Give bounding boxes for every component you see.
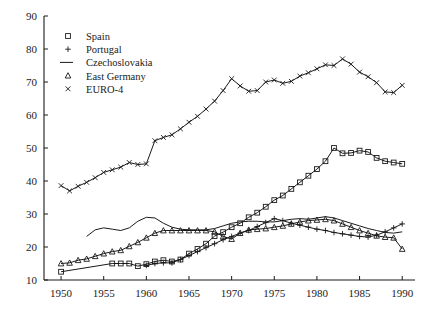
x-axis-tick-label: 1990	[391, 287, 414, 299]
data-point-marker	[93, 175, 98, 180]
x-axis-tick-label: 1980	[306, 287, 329, 299]
legend-label-spain: Spain	[86, 31, 111, 42]
y-axis-tick-label: 50	[26, 142, 38, 154]
data-point-marker	[331, 230, 337, 236]
data-point-marker	[59, 183, 64, 188]
legend-marker-square	[66, 34, 71, 39]
line-chart: 1020304050607080901950195519601965197019…	[0, 0, 423, 313]
series-line	[61, 148, 402, 272]
series-line	[146, 219, 402, 266]
data-point-marker	[152, 138, 157, 143]
series-line	[87, 217, 403, 237]
data-point-marker	[374, 80, 379, 85]
chart-root: 1020304050607080901950195519601965197019…	[0, 0, 423, 313]
data-point-marker	[187, 120, 192, 125]
data-point-marker	[357, 70, 362, 75]
y-axis-tick-label: 20	[26, 241, 38, 253]
x-axis-tick-label: 1960	[135, 287, 158, 299]
data-point-marker	[340, 231, 346, 237]
legend-marker-plus	[65, 46, 71, 52]
data-point-marker	[315, 66, 320, 71]
data-point-marker	[84, 180, 89, 185]
data-point-marker	[221, 88, 226, 93]
data-point-marker	[349, 62, 354, 67]
x-axis-tick-label: 1965	[178, 287, 201, 299]
data-point-marker	[323, 228, 329, 234]
data-point-marker	[212, 241, 218, 247]
data-point-marker	[297, 74, 302, 79]
data-point-marker	[306, 224, 312, 230]
data-point-marker	[391, 225, 397, 231]
x-axis-tick-label: 1975	[263, 287, 286, 299]
data-point-marker	[399, 221, 405, 227]
y-axis-tick-label: 30	[26, 208, 38, 220]
legend-marker-x	[66, 86, 71, 91]
chart-legend: SpainPortugalCzechoslovakiaEast GermanyE…	[60, 31, 153, 95]
series-czechoslovakia	[87, 217, 403, 237]
legend-marker-triangle	[65, 73, 71, 78]
data-point-marker	[204, 107, 209, 112]
y-axis-tick-label: 80	[26, 43, 38, 55]
data-point-marker	[238, 84, 243, 89]
data-point-marker	[67, 189, 72, 194]
data-point-marker	[271, 216, 277, 222]
legend-label-portugal: Portugal	[86, 44, 122, 55]
y-axis-tick-label: 60	[26, 109, 38, 121]
legend-label-east-germany: East Germany	[86, 71, 147, 82]
x-axis-tick-label: 1970	[221, 287, 244, 299]
series-spain	[59, 146, 405, 275]
y-axis-tick-label: 40	[26, 175, 38, 187]
data-point-marker	[76, 184, 81, 189]
data-point-marker	[400, 83, 405, 88]
data-point-marker	[348, 232, 354, 238]
data-point-marker	[314, 226, 320, 232]
legend-label-czechoslovakia: Czechoslovakia	[86, 57, 153, 68]
y-axis-tick-label: 10	[26, 274, 38, 286]
data-point-marker	[195, 114, 200, 119]
data-point-marker	[178, 126, 183, 131]
y-axis-tick-label: 90	[26, 10, 38, 22]
data-point-marker	[366, 74, 371, 79]
data-point-marker	[263, 220, 269, 226]
x-axis-tick-label: 1955	[93, 287, 116, 299]
data-point-marker	[306, 70, 311, 75]
x-axis-tick-label: 1985	[349, 287, 372, 299]
legend-label-euro-4: EURO-4	[86, 84, 124, 95]
data-point-marker	[212, 99, 217, 104]
data-point-marker	[357, 234, 363, 240]
y-axis-tick-label: 70	[26, 76, 38, 88]
x-axis-tick-label: 1950	[50, 287, 73, 299]
data-point-marker	[229, 76, 234, 81]
data-point-marker	[340, 57, 345, 62]
